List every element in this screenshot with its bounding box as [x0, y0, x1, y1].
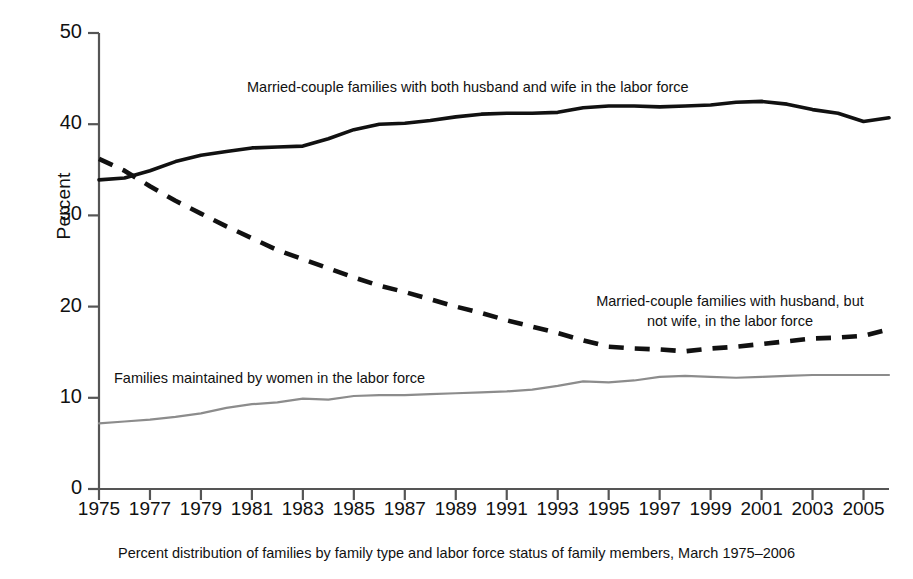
y-axis-ticks	[88, 33, 99, 489]
x-axis-tick-label: 1987	[377, 498, 433, 520]
x-axis-tick-label: 2001	[734, 498, 790, 520]
x-axis-tick-label: 1985	[326, 498, 382, 520]
x-axis-tick-label: 1989	[428, 498, 484, 520]
x-axis-tick-label: 1975	[71, 498, 127, 520]
x-axis-tick-label: 2005	[836, 498, 892, 520]
y-axis-tick-label: 50	[36, 20, 82, 43]
y-axis-tick-label: 0	[36, 476, 82, 499]
series-line-married-both	[99, 101, 889, 179]
x-axis-tick-label: 1997	[632, 498, 688, 520]
x-axis-tick-label: 1979	[173, 498, 229, 520]
y-axis-tick-label: 40	[36, 111, 82, 134]
annotation-husband-only-line2: not wife, in the labor force	[647, 313, 813, 329]
chart-caption: Percent distribution of families by fami…	[0, 545, 913, 561]
annotation-married-both: Married-couple families with both husban…	[247, 78, 689, 98]
annotation-husband-only: Married-couple families with husband, bu…	[570, 292, 890, 331]
annotation-husband-only-line1: Married-couple families with husband, bu…	[596, 293, 864, 309]
x-axis-tick-label: 1977	[122, 498, 178, 520]
x-axis-tick-label: 1999	[683, 498, 739, 520]
annotation-women-maintained: Families maintained by women in the labo…	[114, 369, 425, 389]
x-axis-tick-label: 1993	[530, 498, 586, 520]
x-axis-tick-label: 1991	[479, 498, 535, 520]
x-axis-tick-label: 1995	[581, 498, 637, 520]
y-axis-tick-label: 20	[36, 294, 82, 317]
x-axis-tick-label: 1983	[275, 498, 331, 520]
chart-container: Percent 01020304050 19751977197919811983…	[0, 0, 913, 579]
y-axis-tick-label: 30	[36, 202, 82, 225]
x-axis-tick-label: 2003	[785, 498, 841, 520]
y-axis-tick-label: 10	[36, 385, 82, 408]
x-axis-tick-label: 1981	[224, 498, 280, 520]
